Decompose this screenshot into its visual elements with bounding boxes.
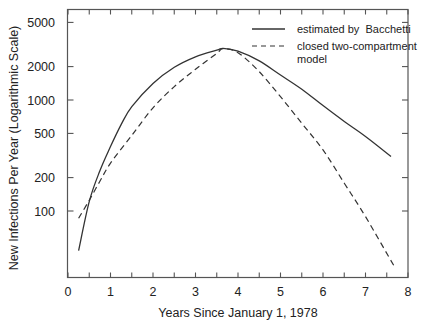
y-tick-label: 500 xyxy=(34,127,55,141)
y-axis-title: New Infections Per Year (Logarithmic Sca… xyxy=(7,26,21,271)
legend-label-two-compartment-cont: model xyxy=(297,53,327,65)
y-tick-label: 2000 xyxy=(27,60,55,74)
y-tick-label: 5000 xyxy=(27,16,55,30)
x-tick-label: 0 xyxy=(65,285,72,299)
x-tick-label: 1 xyxy=(107,285,114,299)
series-bacchetti-line xyxy=(79,48,391,250)
y-tick-label: 100 xyxy=(34,205,55,219)
x-tick-label: 2 xyxy=(150,285,157,299)
legend-label-bacchetti: estimated by Bacchetti xyxy=(297,23,411,35)
x-tick-label: 7 xyxy=(362,285,369,299)
x-tick-label: 6 xyxy=(320,285,327,299)
series-two-compartment-line xyxy=(79,49,394,266)
legend: estimated by Bacchetti closed two-compar… xyxy=(252,23,417,65)
y-tick-label: 1000 xyxy=(27,94,55,108)
x-axis-title: Years Since January 1, 1978 xyxy=(158,306,317,320)
x-tick-label: 3 xyxy=(192,285,199,299)
y-tick-label: 200 xyxy=(34,171,55,185)
x-tick-label: 8 xyxy=(405,285,412,299)
x-tick-label: 4 xyxy=(235,285,242,299)
x-tick-label: 5 xyxy=(277,285,284,299)
series-layer xyxy=(79,48,394,266)
legend-label-two-compartment: closed two-compartment xyxy=(297,40,417,52)
line-chart: 012345678 100200500100020005000 estimate… xyxy=(0,0,421,329)
